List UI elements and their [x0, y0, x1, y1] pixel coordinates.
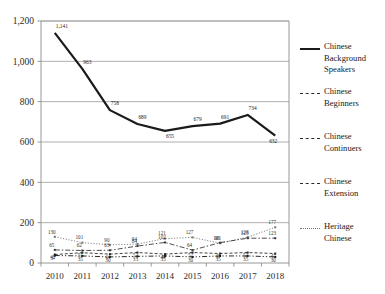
- data-label: 123: [241, 230, 249, 236]
- data-label: 127: [186, 229, 194, 235]
- data-label: 62: [77, 242, 83, 248]
- data-label: 632: [269, 138, 277, 144]
- data-label: 734: [249, 105, 257, 111]
- data-label: 691: [221, 114, 229, 120]
- data-label: 30: [105, 257, 111, 263]
- y-axis-tick-label: 0: [29, 258, 34, 268]
- data-label: 123: [268, 230, 276, 236]
- data-label: 35: [216, 256, 222, 262]
- series-marker: [274, 226, 276, 228]
- data-label: 758: [111, 100, 119, 106]
- data-label: 963: [83, 59, 91, 65]
- y-axis-tick-label: 1,200: [13, 16, 35, 26]
- data-label: 63: [104, 242, 110, 248]
- x-axis-tick-label: 2018: [266, 271, 285, 281]
- data-label: 37: [50, 255, 56, 261]
- x-axis-tick-label: 2010: [46, 271, 65, 281]
- data-label: 35: [243, 256, 249, 262]
- series-marker: [54, 236, 56, 238]
- y-axis-tick-label: 400: [20, 178, 35, 188]
- series-marker: [247, 237, 249, 239]
- y-axis-tick-label: 800: [20, 97, 35, 107]
- y-axis-tick-label: 200: [20, 218, 35, 228]
- data-label: 177: [268, 219, 276, 225]
- series-marker: [109, 249, 111, 251]
- series-marker: [192, 236, 194, 238]
- data-label: 33: [133, 256, 139, 262]
- line-chart: 02004006008001,0001,20020102011201220132…: [0, 0, 385, 294]
- series-marker: [136, 245, 138, 247]
- data-label: 130: [48, 229, 56, 235]
- data-label: 101: [213, 235, 221, 241]
- chart-container: 02004006008001,0001,20020102011201220132…: [0, 0, 385, 294]
- data-label: 35: [160, 256, 166, 262]
- data-label: 35: [78, 256, 84, 262]
- series-marker: [164, 241, 166, 243]
- data-label: 30: [188, 257, 194, 263]
- x-axis-tick-label: 2012: [101, 271, 119, 281]
- x-axis-tick-label: 2015: [184, 271, 203, 281]
- series-marker: [54, 249, 56, 251]
- x-axis-tick-label: 2014: [156, 271, 175, 281]
- data-label: 689: [138, 114, 146, 120]
- data-label: 102: [158, 234, 166, 240]
- series-marker: [219, 242, 221, 244]
- series-marker: [192, 249, 194, 251]
- x-axis-tick-label: 2016: [211, 271, 230, 281]
- data-label: 65: [49, 242, 55, 248]
- data-label: 1,141: [56, 23, 68, 29]
- data-label: 84: [132, 238, 138, 244]
- y-axis-tick-label: 600: [20, 137, 35, 147]
- data-label: 30: [271, 257, 277, 263]
- y-axis-tick-label: 1,000: [13, 57, 35, 67]
- data-label: 101: [75, 234, 83, 240]
- data-label: 679: [194, 116, 202, 122]
- x-axis-tick-label: 2013: [128, 271, 147, 281]
- x-axis-tick-label: 2011: [73, 271, 91, 281]
- data-label: 64: [187, 242, 193, 248]
- data-label: 655: [166, 133, 174, 139]
- series-marker: [274, 237, 276, 239]
- x-axis-tick-label: 2017: [239, 271, 258, 281]
